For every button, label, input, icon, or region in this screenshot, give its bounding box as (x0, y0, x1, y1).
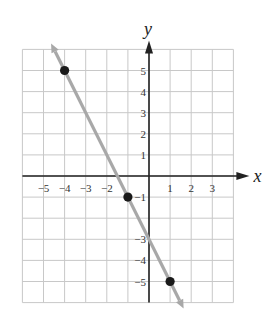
data-point (123, 193, 132, 202)
y-axis-arrow-icon (145, 40, 153, 53)
y-tick-label: 5 (141, 65, 147, 77)
y-tick-label: −4 (134, 254, 146, 266)
x-axis-arrow-icon (236, 172, 249, 180)
x-tick-label: 1 (167, 182, 173, 194)
x-tick-label: −2 (101, 182, 113, 194)
y-tick-label: −1 (134, 191, 146, 203)
y-tick-label: 2 (141, 128, 147, 140)
x-tick-label: −4 (59, 182, 71, 194)
x-axis-label: x (252, 166, 261, 186)
x-tick-label: −5 (38, 182, 50, 194)
y-tick-label: 1 (141, 149, 147, 161)
y-axis-label: y (142, 19, 152, 39)
data-point (166, 277, 175, 286)
x-tick-label: 3 (210, 182, 216, 194)
y-tick-label: −5 (134, 276, 146, 288)
y-tick-label: 4 (141, 86, 147, 98)
y-tick-label: −3 (134, 233, 146, 245)
x-tick-label: −3 (80, 182, 92, 194)
data-point (60, 66, 69, 75)
coordinate-plane: −5−4−3−212354321−1−3−4−5 x y (0, 0, 267, 312)
y-tick-label: 3 (141, 107, 147, 119)
x-tick-label: 2 (188, 182, 194, 194)
